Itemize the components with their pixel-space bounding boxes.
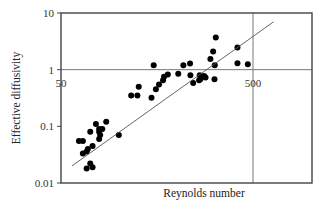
data-point [134, 93, 140, 99]
data-point [187, 72, 193, 78]
data-point [153, 86, 159, 92]
x-tick-label: 500 [245, 77, 262, 89]
data-point [87, 129, 93, 135]
data-point [84, 166, 90, 172]
data-point [196, 77, 202, 83]
data-point [136, 84, 142, 90]
data-point [201, 73, 207, 79]
data-point [93, 121, 99, 127]
data-point [116, 132, 122, 138]
data-point [90, 143, 96, 149]
data-point [87, 161, 93, 167]
y-tick-label: 0.1 [40, 120, 54, 132]
y-tick-label: 1 [49, 64, 55, 76]
data-point [213, 34, 219, 40]
chart-background [0, 0, 325, 207]
data-point [207, 56, 213, 62]
data-point [210, 48, 216, 54]
data-point [161, 74, 167, 80]
y-tick-label: 0.01 [35, 177, 54, 189]
data-point [80, 138, 86, 144]
y-tick-label: 10 [43, 7, 55, 19]
data-point [245, 61, 251, 67]
data-point [99, 126, 105, 132]
data-point [151, 62, 157, 68]
y-axis-label: Effective diffusivity [10, 51, 23, 144]
data-point [180, 62, 186, 68]
data-point [234, 60, 240, 66]
data-point [175, 71, 181, 77]
data-point [211, 76, 217, 82]
data-point [187, 61, 193, 67]
data-point [148, 95, 154, 101]
scatter-chart: 1010.10.01 50500 Reynolds number Effecti… [0, 0, 325, 207]
x-tick-label: 50 [56, 77, 68, 89]
data-point [103, 119, 109, 125]
data-point [97, 132, 103, 138]
data-point [128, 93, 134, 99]
x-axis-label: Reynolds number [163, 187, 245, 200]
